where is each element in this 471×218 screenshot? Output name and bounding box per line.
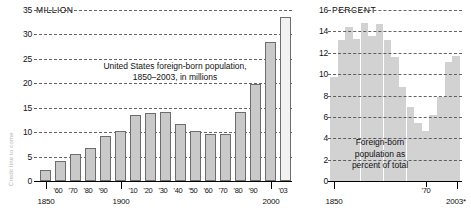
r-xlabel-1850: 1850 xyxy=(318,198,350,206)
right-ytick-2: 2 xyxy=(308,156,328,165)
bar-1970 xyxy=(220,134,231,181)
r-xtick-1850 xyxy=(334,181,335,189)
r-xtick-2003 xyxy=(457,181,458,189)
bar-1930 xyxy=(160,112,171,181)
r-gridline-16 xyxy=(328,10,462,11)
bar-1880 xyxy=(85,148,96,181)
right-ytick-12: 12 xyxy=(308,49,328,58)
bar-1980 xyxy=(235,112,246,181)
right-ytick-6: 6 xyxy=(308,113,328,122)
r-gridline-14 xyxy=(328,31,462,32)
bar-1990 xyxy=(250,84,261,181)
xlabel-2003: '03 xyxy=(271,187,295,195)
right-inner-label-line2: population as xyxy=(332,149,428,161)
left-axis-baseline xyxy=(34,181,292,182)
left-ytick-5: 5 xyxy=(12,153,32,162)
r-gridline-10 xyxy=(328,74,462,75)
xlabel-1850: 1850 xyxy=(30,198,62,206)
left-bars xyxy=(38,0,290,181)
right-inner-label-line3: percent of total xyxy=(328,160,432,172)
right-axis-baseline xyxy=(328,181,462,182)
bar-1890 xyxy=(100,136,111,181)
bar-1950 xyxy=(190,131,201,181)
right-ytick-10: 10 xyxy=(308,70,328,79)
xlabel-1900: 1900 xyxy=(105,198,137,206)
left-ytick-30: 30 xyxy=(12,30,32,39)
bar-1910 xyxy=(130,115,141,181)
right-gridlines xyxy=(328,0,462,218)
left-ytick-10: 10 xyxy=(12,128,32,137)
xlabel-2000: 2000 xyxy=(255,198,287,206)
bar-1870 xyxy=(70,154,81,181)
r-xlabel-2003: 2003* xyxy=(438,198,471,206)
xlabel-1990: '90 xyxy=(241,187,265,195)
bar-2003 xyxy=(280,17,291,181)
r-xlabel-1970: '70 xyxy=(414,187,438,195)
bar-2000 xyxy=(265,42,276,181)
right-ytick-4: 4 xyxy=(308,134,328,143)
right-ytick-8: 8 xyxy=(308,92,328,101)
right-chart-panel: PERCENT 16 14 12 10 8 6 4 2 0 xyxy=(300,0,465,218)
r-gridline-12 xyxy=(328,53,462,54)
left-chart-panel: MILLION United States foreign-born popul… xyxy=(0,0,296,218)
xlabel-1890: '90 xyxy=(91,187,115,195)
bar-1920 xyxy=(145,113,156,181)
bar-1860 xyxy=(55,161,66,181)
right-inner-label-line1: Foreign-born xyxy=(332,137,428,149)
left-ytick-15: 15 xyxy=(12,104,32,113)
right-ytick-0: 0 xyxy=(308,177,328,186)
left-ytick-25: 25 xyxy=(12,55,32,64)
bar-1940 xyxy=(175,124,186,181)
bar-1960 xyxy=(205,134,216,181)
bar-1850 xyxy=(40,170,51,181)
right-ytick-16: 16 xyxy=(308,6,328,15)
r-gridline-6 xyxy=(328,117,462,118)
r-gridline-8 xyxy=(328,96,462,97)
left-ytick-0: 0 xyxy=(12,177,32,186)
left-ytick-35: 35 xyxy=(12,6,32,15)
bar-1900 xyxy=(115,131,126,181)
left-ytick-20: 20 xyxy=(12,79,32,88)
right-ytick-14: 14 xyxy=(308,27,328,36)
